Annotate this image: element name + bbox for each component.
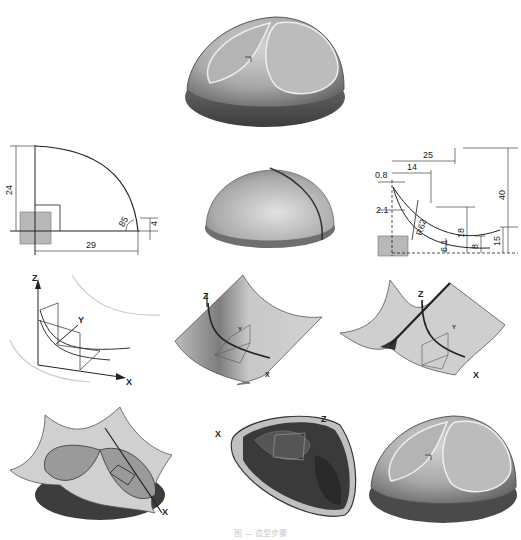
dim-height: 24	[4, 185, 14, 195]
dim-2-1: 2.1	[376, 205, 389, 215]
dim-edge: 4	[149, 221, 159, 226]
swept-surface-render: Z Y X	[170, 265, 345, 395]
axis-label-z: Z	[32, 273, 38, 283]
curves-3d-panel: Z X Y	[0, 265, 175, 395]
mirrored-surface-render: Z Y X	[340, 265, 521, 395]
dim-angle: 85	[117, 215, 131, 229]
cut-body-panel: X Z	[215, 405, 360, 520]
dim-width: 29	[86, 240, 96, 250]
axis-label-z: Z	[321, 414, 327, 424]
axis-label-x: X	[162, 507, 168, 517]
axis-label-x: X	[265, 371, 270, 378]
final-part-bottom-panel	[365, 405, 521, 525]
swept-surface-panel: Z Y X	[170, 265, 345, 395]
dim-25: 25	[423, 150, 433, 160]
sketch-profile-1-panel: 24 29 85 4	[0, 140, 175, 260]
sketch-profile-2-panel: 25 14 0.8 2.1 R62 40 18 15 8 6.1	[360, 140, 521, 260]
axis-label-y: Y	[78, 315, 84, 325]
sketch-1: 24 29 85 4	[0, 140, 175, 260]
axis-label-z: Z	[203, 291, 209, 301]
dim-15: 15	[492, 236, 502, 246]
dim-0-8: 0.8	[375, 170, 388, 180]
knob-render	[180, 5, 350, 130]
dome-render	[200, 160, 340, 250]
cut-body-render: X Z	[215, 405, 360, 520]
figure-caption: 图 — 造型步骤	[0, 527, 521, 538]
mirrored-surface-panel: Z Y X	[340, 265, 521, 395]
sketch-2: 25 14 0.8 2.1 R62 40 18 15 8 6.1	[360, 140, 521, 260]
revolved-dome-panel	[200, 160, 340, 250]
dim-14: 14	[407, 162, 417, 172]
knob-render-final	[365, 405, 521, 525]
knob-top-face	[443, 421, 511, 491]
trim-surfaces-panel: X	[0, 395, 180, 525]
trim-surfaces-render: X	[0, 395, 180, 525]
curves-wireframe: Z X Y	[0, 265, 175, 395]
knob-top-face	[266, 22, 338, 93]
axis-label-x: X	[215, 429, 221, 439]
axis-label-x: X	[473, 370, 479, 380]
dim-40: 40	[497, 190, 507, 200]
final-part-top-panel	[180, 5, 350, 130]
axis-label-x: X	[126, 377, 132, 387]
dim-8: 8	[470, 244, 480, 249]
dim-6-1: 6.1	[439, 239, 449, 252]
axis-y	[55, 325, 78, 345]
dim-radius: R62	[414, 218, 428, 237]
axis-label-y: Y	[452, 324, 456, 330]
axis-label-z: Z	[418, 289, 424, 299]
curve-outer	[393, 187, 500, 236]
surface-sheet	[175, 275, 322, 385]
dim-18: 18	[456, 228, 466, 238]
